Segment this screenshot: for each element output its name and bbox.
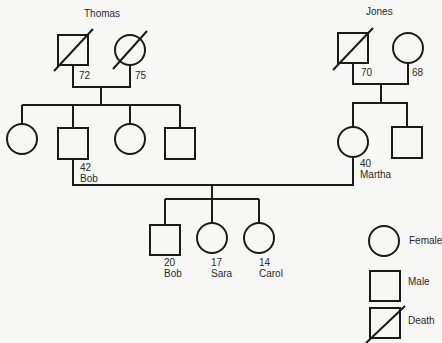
legend-female-icon <box>369 226 399 256</box>
martha-age-label: 40 <box>360 158 372 169</box>
child-carol-circle <box>244 223 274 253</box>
genogram-diagram: Thomas Jones 72 75 42 Bob 70 68 40 Marth… <box>0 0 442 343</box>
child-carol-age: 14 <box>259 257 271 268</box>
thomas-daughter-2 <box>115 124 145 154</box>
legend-death-label: Death <box>408 315 435 326</box>
legend-male-icon <box>370 271 400 301</box>
female-circle-icon <box>393 33 423 63</box>
martha-circle <box>338 127 368 157</box>
thomas-son-2 <box>165 128 195 159</box>
age-label: 72 <box>79 70 91 81</box>
bob-age-label: 42 <box>80 162 92 173</box>
child-sara-age: 17 <box>211 257 223 268</box>
legend-female-label: Female <box>409 235 442 246</box>
legend: Female Male Death <box>366 226 442 343</box>
surname-thomas: Thomas <box>84 8 120 19</box>
marriage-line-bob-martha <box>73 157 353 185</box>
legend-death-icon <box>370 308 400 338</box>
child-carol-name: Carol <box>259 268 283 279</box>
bob-name-label: Bob <box>80 173 98 184</box>
jones-son <box>392 127 422 158</box>
legend-male-label: Male <box>408 276 430 287</box>
child-bob-square <box>150 225 180 255</box>
sibling-bar-jones <box>353 103 407 127</box>
age-label: 75 <box>135 70 147 81</box>
child-bob-name: Bob <box>164 268 182 279</box>
thomas-daughter-1 <box>7 124 37 154</box>
martha-name-label: Martha <box>360 169 392 180</box>
surname-jones: Jones <box>366 6 393 17</box>
child-sara-name: Sara <box>211 268 233 279</box>
bob-father-square <box>58 128 88 159</box>
child-sara-circle <box>197 223 227 253</box>
age-label: 70 <box>361 67 373 78</box>
child-bob-age: 20 <box>164 257 176 268</box>
age-label: 68 <box>412 67 424 78</box>
